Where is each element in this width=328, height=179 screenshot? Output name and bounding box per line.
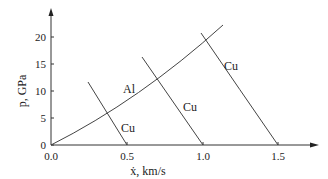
y-axis-arrow-icon [49,8,54,16]
x-tick-0.5: 0.5 [120,150,134,162]
y-axis-label: p, GPa [15,74,29,107]
cu-curve-3 [201,33,278,145]
x-axis-arrow-icon [310,143,319,148]
cu-curve-1 [88,82,127,145]
al-label: Al [123,82,136,96]
cu-label-3: Cu [224,59,238,73]
y-tick-5: 5 [41,112,47,124]
cu-label-2: Cu [183,100,197,114]
y-tick-15: 15 [35,58,47,70]
al-curve [51,25,223,145]
cu-label-1: Cu [121,121,135,135]
x-tick-0: 0.0 [44,150,58,162]
x-tick-1.0: 1.0 [196,150,210,162]
chart: 0 5 10 15 20 0.0 0.5 1.0 1.5 ẋ, km/s p, … [0,0,328,179]
x-axis-label: ẋ, km/s [130,164,166,178]
x-tick-1.5: 1.5 [271,150,285,162]
y-tick-20: 20 [35,31,47,43]
y-tick-10: 10 [35,85,47,97]
